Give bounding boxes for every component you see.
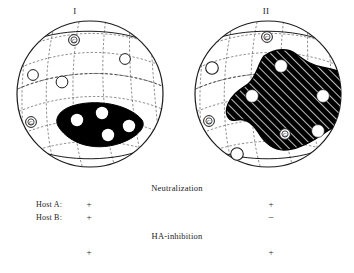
globe-panel-i: G G <box>14 18 166 170</box>
svg-text:G: G <box>29 120 33 126</box>
neutralization-label: Neutralization <box>112 183 242 193</box>
site-dot <box>246 90 259 103</box>
svg-text:G: G <box>207 119 211 125</box>
epitope-marker-g: G <box>26 117 37 128</box>
epitope-marker-g: G <box>69 35 80 46</box>
svg-text:G: G <box>265 35 269 41</box>
epitope-marker-g: G <box>204 116 215 127</box>
epitope-marker-plain <box>231 148 244 161</box>
panel-title-i: I <box>55 6 95 16</box>
site-dot <box>123 120 135 132</box>
neutralization-host-a-panel-i: + <box>80 200 98 209</box>
epitope-marker-plain <box>56 76 68 88</box>
epitope-marker-plain <box>120 54 131 65</box>
site-dot <box>102 129 114 141</box>
site-dot <box>71 114 83 126</box>
neutralization-host-a-panel-ii: + <box>262 200 280 209</box>
site-dot <box>96 107 108 119</box>
neutralization-host-b-panel-i: + <box>80 213 98 222</box>
ha-inhibition-label: HA-inhibition <box>112 231 242 241</box>
site-dot <box>275 60 288 73</box>
panel-title-ii: II <box>246 6 286 16</box>
epitope-marker-g: G <box>280 129 291 140</box>
svg-text:G: G <box>72 38 76 44</box>
globe-diagram-ii: G G G <box>192 18 344 170</box>
globe-panel-ii: G G G <box>192 18 344 170</box>
globe-diagram-i: G G <box>14 18 166 170</box>
figure-antigenic-sites: I <box>0 0 354 273</box>
site-dot <box>317 90 330 103</box>
epitope-marker-plain <box>206 62 219 75</box>
ha-inhibition-panel-i: + <box>80 248 98 257</box>
host-a-label: Host A: <box>36 200 62 209</box>
host-b-label: Host B: <box>36 213 62 222</box>
neutralization-host-b-panel-ii: − <box>262 213 280 223</box>
svg-text:G: G <box>283 132 287 138</box>
site-dot <box>312 125 325 138</box>
ha-inhibition-panel-ii: + <box>262 248 280 257</box>
epitope-marker-plain <box>28 70 39 81</box>
epitope-marker-g: G <box>262 32 273 43</box>
